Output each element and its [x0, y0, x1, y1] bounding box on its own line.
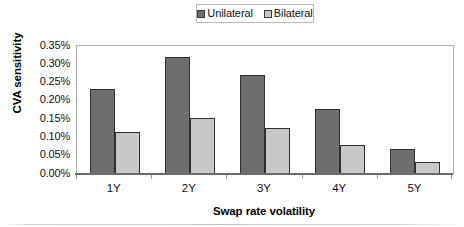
x-axis-tick-mark [226, 175, 227, 179]
plot-area [76, 45, 454, 174]
bars-layer [77, 46, 453, 174]
bar-bilateral-1y [115, 132, 140, 174]
y-axis-tick-label: 0.05% [40, 148, 70, 162]
x-axis-tick-mark [377, 175, 378, 179]
x-axis-tick-marks [76, 175, 452, 179]
legend-label-bilateral: Bilateral [274, 8, 313, 19]
y-axis-title: CVA sensitivity [11, 8, 23, 138]
y-axis-tick-label: 0.10% [40, 129, 70, 143]
bar-bilateral-4y [340, 145, 365, 174]
bar-group [152, 46, 227, 174]
bar-unilateral-1y [90, 89, 115, 174]
y-axis-tick-text: 0.25% [40, 76, 70, 87]
scan-artifact-line [0, 224, 464, 225]
x-axis-title: Swap rate volatility [76, 205, 452, 217]
y-axis-tick-label: 0.00% [40, 166, 70, 180]
y-axis-tick-label: 0.20% [40, 93, 70, 107]
y-axis-tick-text: 0.05% [40, 149, 70, 160]
y-axis-tick-label: 0.15% [40, 111, 70, 125]
legend-swatch-bilateral-icon [264, 10, 272, 18]
y-axis-tick-text: 0.20% [40, 94, 70, 105]
y-axis-tick-text: 0.00% [40, 168, 70, 179]
y-axis-tick-text: 0.15% [40, 113, 70, 124]
y-axis-tick-label: 0.25% [40, 75, 70, 89]
y-axis-tick-text: 0.35% [40, 40, 70, 51]
x-axis-category-label: 4Y [302, 181, 377, 195]
y-axis-tick-label: 0.30% [40, 56, 70, 70]
x-axis-category-label: 2Y [151, 181, 226, 195]
bar-unilateral-3y [240, 75, 265, 174]
x-axis-category-label: 5Y [377, 181, 452, 195]
x-axis-category-label: 1Y [76, 181, 151, 195]
x-axis-tick-mark [302, 175, 303, 179]
x-axis-tick-mark [76, 175, 77, 179]
bar-unilateral-4y [315, 109, 340, 174]
x-axis-tick-mark [151, 175, 152, 179]
bar-unilateral-2y [165, 57, 190, 174]
chart-legend: Unilateral Bilateral [196, 4, 314, 23]
x-axis-category-label: 3Y [226, 181, 301, 195]
y-axis-tick-text: 0.30% [40, 58, 70, 69]
legend-label-unilateral: Unilateral [207, 8, 252, 19]
bar-group [77, 46, 152, 174]
bar-group [378, 46, 453, 174]
cva-sensitivity-bar-chart: Unilateral Bilateral CVA sensitivity 0.3… [0, 0, 464, 227]
y-axis-tick-text: 0.10% [40, 131, 70, 142]
bar-group [303, 46, 378, 174]
bar-group [227, 46, 302, 174]
bar-unilateral-5y [390, 149, 415, 174]
x-axis-category-labels: 1Y2Y3Y4Y5Y [76, 181, 452, 199]
bar-bilateral-3y [265, 128, 290, 174]
x-axis-tick-mark [451, 175, 452, 179]
y-axis-tick-label: 0.35% [40, 38, 70, 52]
bar-bilateral-2y [190, 118, 215, 174]
legend-entry-bilateral: Bilateral [264, 8, 313, 19]
legend-swatch-unilateral-icon [197, 10, 205, 18]
legend-entry-unilateral: Unilateral [197, 8, 252, 19]
y-axis-tick-labels: 0.35%0.30%0.25%0.20%0.15%0.10%0.05%0.00% [23, 38, 70, 178]
